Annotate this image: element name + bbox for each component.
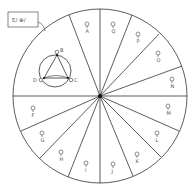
node-c-label: C [74,77,78,83]
segment-q: Q [111,22,116,34]
segment-j-label: J [111,168,113,174]
segment-f-label: F [32,112,35,118]
segment-g-label: G [41,137,45,143]
segment-k-label: K [136,158,140,164]
inset-diagram: B C D [33,47,78,87]
segment-o: O [156,51,161,63]
segment-m: M [166,104,171,116]
label-box-text: E/ ⊕/ [12,17,26,23]
segment-k: K [135,152,140,164]
segment-n: N [170,77,175,89]
segment-p-label: P [137,38,140,44]
segment-l: L [155,131,159,143]
segment-i: I [84,161,88,173]
segment-g: G [40,131,45,143]
node-b-icon [55,50,59,54]
segment-j: J [111,162,116,174]
segment-l-label: L [156,137,159,143]
node-d-icon [39,78,43,82]
segment-markers: A Q P O N M L [31,22,175,174]
segment-n-label: N [171,83,175,89]
segment-a-label: A [86,28,90,34]
segment-p: P [136,32,140,44]
segment-m-label: M [167,110,171,116]
wheel-diagram: E/ ⊕/ B C D A Q P [0,0,194,191]
segment-h: H [59,150,64,162]
segment-q-label: Q [112,28,116,34]
segment-a: A [85,22,90,34]
segment-i-label: I [85,167,86,173]
segment-h-label: H [60,156,64,162]
hub [98,94,102,98]
node-b-label: B [60,47,64,53]
node-c-icon [69,78,73,82]
node-d-label: D [33,77,37,83]
segment-o-label: O [157,57,161,63]
segment-f: F [31,106,35,118]
